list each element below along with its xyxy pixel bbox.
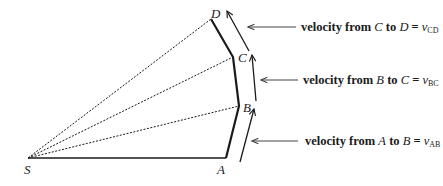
point-label-b: B [243, 100, 251, 115]
point-label-a: A [216, 162, 225, 177]
radius-s-c [28, 57, 233, 158]
caption-velocity-cd: velocity from C to D = vCD [301, 20, 439, 35]
point-label-s: S [24, 162, 31, 177]
orbit-path [211, 19, 239, 158]
velocity-arrow-bc [252, 55, 256, 101]
velocity-arrow-cd [227, 11, 249, 51]
point-label-d: D [210, 6, 221, 21]
radius-lines [28, 19, 239, 158]
radius-s-b [28, 106, 239, 158]
velocity-arrow-ab [240, 109, 254, 162]
caption-velocity-bc: velocity from B to C = vBC [303, 73, 439, 88]
radius-s-d [28, 19, 211, 158]
caption-velocity-ab: velocity from A to B = vAB [305, 134, 440, 149]
orbit-velocity-diagram: S A B C D velocity from C to D = vCD vel… [0, 0, 443, 186]
point-label-c: C [238, 50, 247, 65]
